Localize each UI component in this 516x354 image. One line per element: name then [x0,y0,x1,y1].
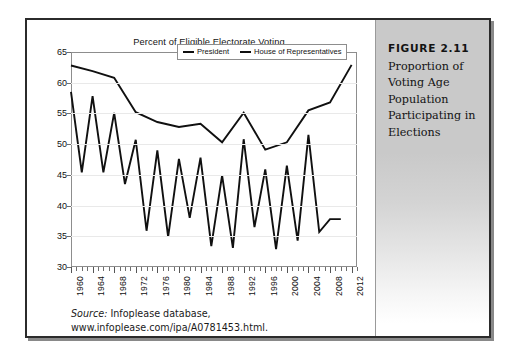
x-axis-tick [195,267,196,271]
y-axis-tick [67,83,71,84]
x-axis-tick [157,267,158,273]
x-axis-tick [287,267,288,273]
x-axis-tick-label: 1976 [161,276,171,296]
y-axis-tick [67,113,71,114]
chart-panel: Percent of Eligible Electorate Voting 30… [27,20,375,336]
x-axis-tick [281,267,282,271]
x-axis-tick [152,267,153,271]
gridline [71,144,357,145]
x-axis-tick [147,267,148,271]
x-axis-tick [238,267,239,271]
y-axis-tick-label: 45 [41,170,67,180]
x-axis-tick-label: 1988 [226,276,236,296]
x-axis-tick [130,267,131,271]
gridline [71,236,357,237]
x-axis-tick [335,267,336,271]
x-axis-tick [244,267,245,273]
chart-legend: President House of Representatives [177,44,347,60]
x-axis-tick [227,267,228,271]
x-axis-tick-label: 1980 [182,276,192,296]
figure-number-label: FIGURE 2.11 [388,42,484,54]
gridline [71,175,357,176]
gridline [71,83,357,84]
x-axis-tick [76,267,77,271]
x-axis-tick [319,267,320,271]
x-axis-tick-label: 1996 [269,276,279,296]
x-axis-tick [211,267,212,271]
x-axis-tick-label: 2008 [334,276,344,296]
x-axis-tick [136,267,137,273]
gridline [71,206,357,207]
x-axis-tick-label: 2012 [355,276,365,296]
legend-swatch-house [240,51,251,53]
gridline [71,113,357,114]
x-axis-tick [352,267,353,273]
x-axis-tick [206,267,207,271]
x-axis-tick [265,267,266,273]
y-axis-tick [67,175,71,176]
x-axis-tick [109,267,110,271]
x-axis-tick [184,267,185,271]
caption-panel: FIGURE 2.11 Proportion of Voting Age Pop… [375,20,489,336]
source-line-1: Source: Infoplease database, [71,307,361,321]
x-axis-tick [298,267,299,271]
x-axis-tick-label: 1968 [118,276,128,296]
x-axis-tick [120,267,121,271]
y-axis-tick-label: 30 [41,262,67,272]
y-axis-tick-label: 65 [41,47,67,57]
legend-label-president: President [197,47,229,56]
x-axis-tick [103,267,104,271]
x-axis-tick [141,267,142,271]
x-axis-tick [163,267,164,271]
x-axis-tick [308,267,309,273]
x-axis-tick [190,267,191,271]
x-axis-tick [93,267,94,273]
x-axis-tick [357,267,358,271]
y-axis-tick [67,52,71,53]
series-line-house [71,92,341,249]
x-axis-tick [201,267,202,273]
y-axis-tick-label: 50 [41,139,67,149]
x-axis-tick [71,267,72,273]
x-axis-tick [276,267,277,271]
x-axis-tick [179,267,180,273]
x-axis-tick-label: 2004 [312,276,322,296]
y-axis-tick-label: 40 [41,201,67,211]
series-layer [71,52,357,267]
x-axis-tick [125,267,126,271]
x-axis-tick [249,267,250,271]
x-axis-tick [222,267,223,273]
caption-inner: FIGURE 2.11 Proportion of Voting Age Pop… [388,42,484,141]
y-axis-tick [67,236,71,237]
x-axis-tick [314,267,315,271]
x-axis-tick [114,267,115,273]
x-axis-tick-label: 2000 [290,276,300,296]
x-axis-tick [260,267,261,271]
x-axis-tick [98,267,99,271]
figure-caption-text: Proportion of Voting Age Population Part… [388,59,484,141]
x-axis-tick [233,267,234,271]
source-note: Source: Infoplease database, www.infople… [71,307,361,334]
x-axis-tick [87,267,88,271]
x-axis-tick [341,267,342,271]
legend-swatch-president [183,51,194,53]
legend-label-house: House of Representatives [254,47,341,56]
x-axis-tick [254,267,255,271]
x-axis-tick-label: 1964 [96,276,106,296]
x-axis-tick [325,267,326,271]
x-axis-tick [217,267,218,271]
x-axis-tick [271,267,272,271]
x-axis-tick [303,267,304,271]
y-axis-tick [67,144,71,145]
x-axis-tick [330,267,331,273]
legend-entry-president: President [183,47,229,56]
x-axis-tick [292,267,293,271]
source-prefix: Source: [71,308,107,319]
y-axis-tick-label: 60 [41,78,67,88]
y-axis-tick-label: 35 [41,231,67,241]
x-axis-tick-label: 1984 [204,276,214,296]
legend-entry-house: House of Representatives [240,47,341,56]
source-line-2: www.infoplease.com/ipa/A0781453.html. [71,321,361,335]
x-axis-tick [174,267,175,271]
y-axis-tick-label: 55 [41,108,67,118]
